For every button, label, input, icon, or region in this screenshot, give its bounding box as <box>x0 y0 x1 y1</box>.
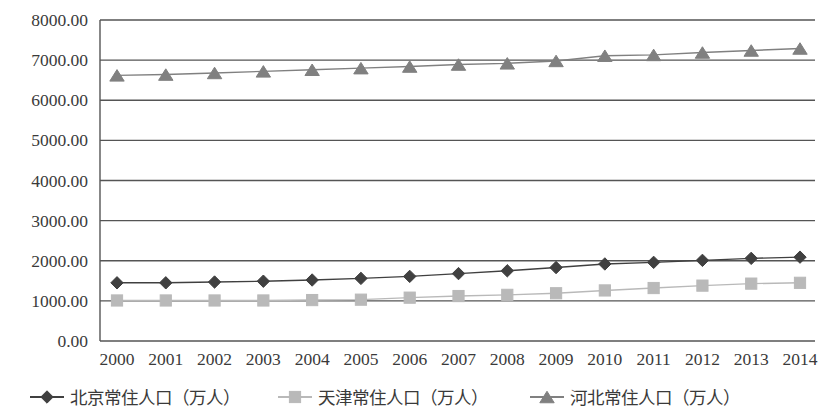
y-tick-label: 7000.00 <box>31 50 88 70</box>
data-point-marker <box>258 295 269 306</box>
data-point-marker <box>289 391 300 402</box>
x-tick-label: 2000 <box>100 349 135 369</box>
x-tick-label: 2009 <box>539 349 574 369</box>
y-tick-label: 1000.00 <box>31 291 88 311</box>
data-point-marker <box>111 295 122 306</box>
y-axis-tick-labels: 8000.007000.006000.005000.004000.003000.… <box>31 10 88 351</box>
x-tick-label: 2008 <box>490 349 525 369</box>
y-tick-label: 5000.00 <box>31 130 88 150</box>
x-tick-label: 2012 <box>685 349 720 369</box>
data-point-marker <box>550 288 561 299</box>
x-tick-label: 2007 <box>441 349 476 369</box>
data-point-marker <box>502 289 513 300</box>
x-tick-label: 2006 <box>392 349 427 369</box>
data-point-marker <box>307 294 318 305</box>
data-point-marker <box>648 282 659 293</box>
data-point-marker <box>794 277 805 288</box>
x-tick-label: 2004 <box>295 349 330 369</box>
data-point-marker <box>404 292 415 303</box>
line-chart-figure: 8000.007000.006000.005000.004000.003000.… <box>0 0 820 409</box>
data-point-marker <box>697 280 708 291</box>
x-tick-label: 2011 <box>636 349 670 369</box>
x-tick-label: 2014 <box>783 349 818 369</box>
x-tick-label: 2005 <box>343 349 378 369</box>
x-tick-label: 2010 <box>587 349 622 369</box>
chart-legend: 北京常住人口（万人）天津常住人口（万人）河北常住人口（万人） <box>30 388 740 408</box>
data-point-marker <box>41 391 53 403</box>
data-point-marker <box>355 294 366 305</box>
data-point-marker <box>746 278 757 289</box>
x-tick-label: 2001 <box>148 349 183 369</box>
legend-item-3: 河北常住人口（万人） <box>530 388 740 408</box>
y-tick-label: 6000.00 <box>31 90 88 110</box>
data-point-marker <box>599 285 610 296</box>
x-tick-label: 2013 <box>734 349 769 369</box>
y-tick-label: 0.00 <box>57 331 88 351</box>
data-point-marker <box>453 290 464 301</box>
data-point-marker <box>160 295 171 306</box>
x-axis-tick-labels: 2000200120022003200420052006200720082009… <box>100 349 818 369</box>
y-tick-label: 8000.00 <box>31 10 88 30</box>
legend-item-label: 天津常住人口（万人） <box>318 388 488 408</box>
legend-item-label: 河北常住人口（万人） <box>570 388 740 408</box>
y-tick-label: 3000.00 <box>31 211 88 231</box>
x-tick-label: 2002 <box>197 349 232 369</box>
y-tick-label: 4000.00 <box>31 171 88 191</box>
legend-item-1: 北京常住人口（万人） <box>30 388 240 408</box>
data-point-marker <box>209 295 220 306</box>
chart-canvas: 8000.007000.006000.005000.004000.003000.… <box>0 0 820 409</box>
y-tick-label: 2000.00 <box>31 251 88 271</box>
legend-item-2: 天津常住人口（万人） <box>278 388 488 408</box>
legend-item-label: 北京常住人口（万人） <box>70 388 240 408</box>
x-tick-label: 2003 <box>246 349 281 369</box>
